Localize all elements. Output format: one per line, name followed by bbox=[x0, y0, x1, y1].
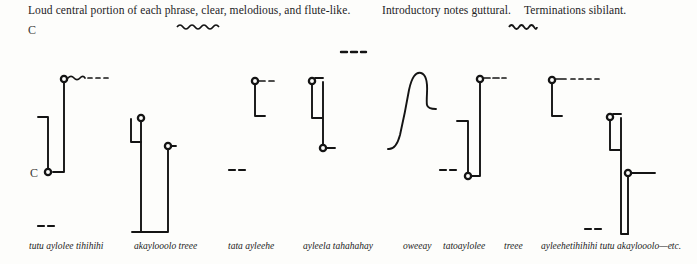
phrase-figure-1 bbox=[38, 76, 108, 226]
caption-phrase-6: tatoaylolee bbox=[443, 241, 485, 251]
caption-phrase-5: oweeay bbox=[403, 241, 432, 251]
caption-phrase-7: treee bbox=[504, 241, 523, 251]
caption-phrase-8: ayleehetihihihi tutu akaylooolo—etc. bbox=[541, 241, 681, 251]
phrase-figure-4 bbox=[309, 52, 366, 151]
notation-figures bbox=[0, 0, 697, 240]
document-page: Loud central portion of each phrase, cle… bbox=[0, 0, 697, 264]
phrase-figure-2 bbox=[131, 115, 176, 232]
phrase-figure-6 bbox=[440, 76, 506, 179]
phrase-figure-7 bbox=[549, 77, 599, 116]
phrase-figure-3 bbox=[229, 78, 274, 170]
caption-phrase-4: ayleela tahahahay bbox=[303, 241, 373, 251]
caption-phrase-1: tutu aylolee tihihihi bbox=[29, 241, 103, 251]
phrase-figure-8 bbox=[585, 114, 655, 234]
caption-phrase-3: tata ayleehe bbox=[228, 241, 274, 251]
caption-phrase-2: akaylooolo treee bbox=[134, 241, 197, 251]
phrase-figure-5 bbox=[388, 73, 436, 149]
